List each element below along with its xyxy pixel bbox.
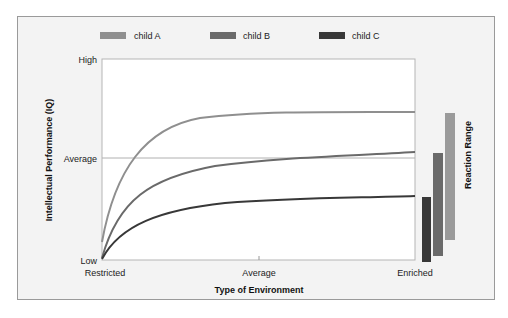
y-axis-title: Intellectual Performance (IQ)	[44, 99, 54, 222]
x-tick-restricted: Restricted	[85, 268, 126, 278]
legend: child A child B child C	[100, 31, 380, 41]
x-tick-enriched: Enriched	[397, 268, 433, 278]
legend-label-child-c: child C	[352, 31, 380, 41]
x-axis-title: Type of Environment	[215, 285, 304, 295]
plot-area	[102, 59, 415, 260]
range-bar-child-c	[422, 197, 431, 262]
legend-label-child-a: child A	[134, 31, 161, 41]
y-tick-average: Average	[64, 154, 97, 164]
y-tick-high: High	[78, 55, 97, 65]
legend-swatch-child-a	[100, 32, 126, 39]
legend-swatch-child-c	[319, 32, 345, 39]
legend-label-child-b: child B	[243, 31, 270, 41]
range-bar-child-a	[445, 113, 455, 240]
y-tick-low: Low	[80, 256, 97, 266]
chart-svg: child A child B child C High Average Low…	[0, 0, 508, 318]
reaction-range-label: Reaction Range	[463, 121, 473, 189]
x-tick-average-label: Average	[242, 268, 275, 278]
legend-swatch-child-b	[210, 32, 236, 39]
range-bar-child-b	[433, 153, 443, 256]
